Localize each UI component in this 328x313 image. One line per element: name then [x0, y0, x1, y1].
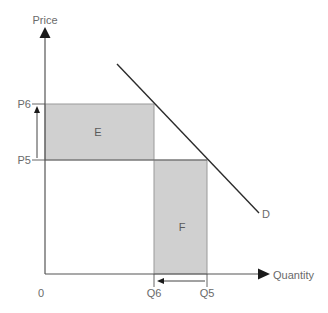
x-axis-label: Quantity [273, 269, 314, 281]
quantity-change-arrowhead-icon [157, 278, 164, 284]
y-axis-arrow-icon [40, 27, 51, 38]
x-axis-arrow-icon [258, 269, 270, 280]
area-f-label: F [179, 221, 186, 233]
q6-label: Q6 [147, 287, 162, 299]
y-axis-label: Price [32, 14, 57, 26]
area-f [154, 160, 207, 274]
q5-label: Q5 [200, 287, 215, 299]
p6-label: P6 [18, 98, 31, 110]
price-change-arrowhead-icon [34, 106, 40, 113]
demand-curve-label: D [262, 208, 270, 220]
origin-label: 0 [38, 287, 44, 299]
p5-label: P5 [18, 154, 31, 166]
area-e-label: E [94, 126, 101, 138]
demand-diagram: Price Quantity 0 P6 P5 Q6 Q5 E F D [0, 0, 328, 313]
